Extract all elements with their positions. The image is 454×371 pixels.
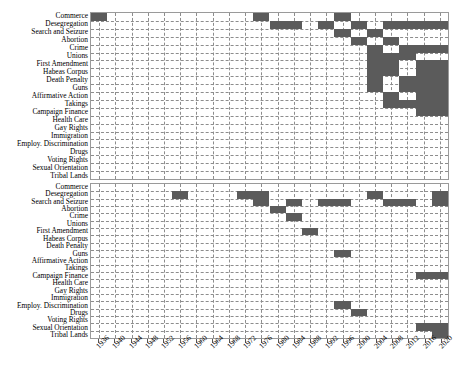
y-axis-labels-bottom: CommerceDesegregationSearch and SeizureA… [0,183,88,339]
heatmap-cell [367,84,383,92]
heatmap-cell [432,191,448,198]
heatmap-cell [367,68,399,76]
cells-top [91,13,448,179]
heatmap-cell [383,199,415,206]
heatmap-cell [367,60,399,68]
heatmap-cell [91,13,107,21]
heatmap-cell [383,37,399,45]
heatmap-cell [318,199,350,206]
heatmap-cell [253,13,269,21]
heatmap-cell [172,191,188,198]
heatmap-cell [302,228,318,235]
y-axis-tick-label: Tribal Lands [50,172,88,179]
heatmap-cell [270,206,286,213]
heatmap-cell [432,199,448,206]
heatmap-cell [286,199,302,206]
heatmap-cell [318,21,334,29]
heatmap-cell [367,76,383,84]
heatmap-cell [334,13,350,21]
bottom-panel [90,183,449,339]
heatmap-cell [399,76,448,84]
heatmap-cell [334,29,350,37]
heatmap-cell [416,92,448,100]
heatmap-cell [253,199,269,206]
y-axis-labels-top: CommerceDesegregationSearch and SeizureA… [0,12,88,180]
heatmap-cell [334,301,350,308]
heatmap-cell [270,21,302,29]
heatmap-cell [383,21,448,29]
y-axis-tick-label: Tribal Lands [50,332,88,339]
heatmap-cell [399,45,448,53]
heatmap-cell [416,60,448,68]
heatmap-cell [383,92,399,100]
heatmap-cell [416,108,448,116]
top-panel [90,12,449,180]
heatmap-cell [286,213,302,220]
heatmap-cell [416,272,448,279]
cells-bottom [91,184,448,338]
heatmap-cell [416,68,448,76]
heatmap-cell [367,53,416,61]
heatmap-cell [351,21,367,29]
heatmap-cell [367,191,383,198]
heatmap-cell [399,84,448,92]
heatmap-cell [367,29,383,37]
x-axis: 1936194019441948195219561960196419681972… [90,339,449,371]
heatmap-cell [334,250,350,257]
heatmap-cell [351,37,367,45]
heatmap-cell [237,191,269,198]
heatmap-cell [383,100,448,108]
heatmap-cell [416,323,448,330]
heatmap-cell [367,45,383,53]
heatmap-cell [351,309,367,316]
